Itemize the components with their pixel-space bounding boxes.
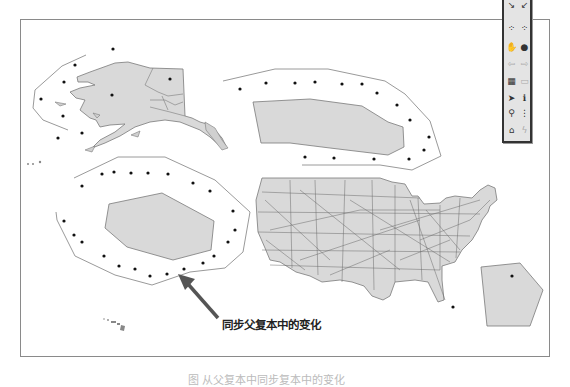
callout-arrow — [178, 274, 218, 318]
zoom-out-icon[interactable]: ↙ — [519, 0, 530, 12]
pan-hand-icon[interactable]: ✋ — [506, 40, 517, 54]
go-back-icon[interactable]: ⇦ — [506, 57, 517, 71]
bottom-right-replica-area — [451, 263, 543, 326]
select-elements-arrow-icon[interactable]: ➤ — [506, 91, 517, 105]
identify-icon[interactable]: ℹ — [519, 91, 530, 105]
left-replica-polygon[interactable] — [105, 193, 214, 260]
zoom-in-icon[interactable]: ↘ — [506, 0, 517, 12]
left-replica-area — [56, 157, 250, 285]
callout-label: 同步父复本中的变化 — [222, 316, 321, 332]
full-extent-globe-icon[interactable]: ● — [519, 40, 530, 54]
top-right-replica-area — [223, 69, 441, 170]
us-shape[interactable] — [256, 178, 497, 302]
hawaii — [103, 318, 125, 331]
contiguous-us — [256, 178, 497, 302]
top-right-replica-polygon[interactable] — [253, 99, 404, 155]
hyperlink-icon[interactable]: ⌂ — [506, 123, 517, 137]
figure-caption: 图 从父复本中同步复本中的变化 — [188, 371, 346, 387]
find-binoculars-icon[interactable]: ⚲ — [506, 106, 517, 120]
clear-selection-icon[interactable]: ▭ — [519, 74, 530, 88]
select-features-icon[interactable]: ▦ — [506, 74, 517, 88]
html-popup-lightning-icon[interactable]: ϟ — [519, 123, 530, 137]
go-forward-icon[interactable]: ⇨ — [519, 57, 530, 71]
fixed-zoom-out-icon[interactable]: ⁘ — [519, 21, 530, 35]
bottom-right-replica-polygon[interactable] — [481, 263, 543, 326]
alaska-replica-area — [27, 47, 228, 165]
tools-toolbar: ↘ ↙ ⁘ ⁘ ✋ ● ⇦ ⇨ ▦ ▭ ➤ ℹ ⚲ ⋮ ⌂ ϟ — [502, 0, 532, 143]
measure-icon[interactable]: ⋮ — [519, 106, 530, 120]
fixed-zoom-in-icon[interactable]: ⁘ — [506, 21, 517, 35]
alaska-shape — [70, 62, 226, 148]
